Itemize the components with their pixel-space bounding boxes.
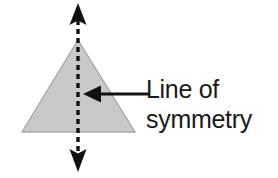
symmetry-label-line-2: symmetry (146, 104, 278, 134)
symmetry-label-line-1: Line of (146, 74, 278, 104)
symmetry-arrowhead-down-icon (70, 149, 87, 172)
symmetry-label: Line of symmetry (146, 74, 278, 134)
symmetry-diagram: Line of symmetry (0, 0, 278, 178)
